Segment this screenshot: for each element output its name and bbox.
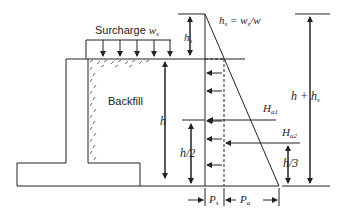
surcharge-label: Surcharge ws (95, 24, 159, 38)
Pa-label: Pa (239, 193, 251, 207)
Ha2-label: Ha2 (281, 126, 297, 140)
retaining-wall (17, 59, 140, 186)
h-half-label: h/2 (180, 146, 195, 160)
h-third-label: h/3 (283, 156, 298, 170)
h-plus-hs-label: h + hs (291, 89, 320, 104)
backfill-hatch (90, 60, 149, 160)
retaining-wall-diagram: Surcharge ws Backfill h hs hs = ws/w Ha1… (0, 0, 342, 222)
surcharge-arrows (103, 40, 170, 56)
Ha1-label: Ha1 (262, 102, 278, 116)
hs-label: hs (184, 31, 193, 45)
Ps-label: Ps (208, 193, 219, 207)
hs-equation: hs = ws/w (219, 14, 261, 28)
backfill-label: Backfill (108, 95, 143, 107)
h-label: h (160, 114, 166, 128)
